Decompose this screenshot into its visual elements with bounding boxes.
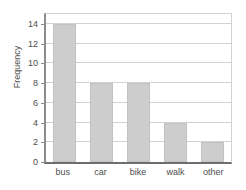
y-tick-mark [41,162,45,163]
bar [53,24,76,162]
y-tick-label: 10 [28,58,38,68]
y-axis-title: Frequency [12,12,22,122]
bar-slot [194,14,231,162]
plot-area: 02468101214 [44,13,232,164]
bar-slot [46,14,83,162]
x-axis-tick-labels: buscarbikewalkother [44,167,232,177]
x-tick-label: bus [44,167,82,177]
x-tick-label: car [82,167,120,177]
bar [201,142,224,162]
y-tick-mark [41,24,45,25]
bar-slot [83,14,120,162]
y-tick-label: 4 [33,118,38,128]
y-tick-mark [41,44,45,45]
x-tick-label: bike [119,167,157,177]
y-tick-mark [41,83,45,84]
y-tick-label: 2 [33,137,38,147]
y-tick-label: 6 [33,98,38,108]
y-tick-mark [41,63,45,64]
y-tick-mark [41,123,45,124]
y-tick-label: 12 [28,39,38,49]
y-tick-mark [41,142,45,143]
bar-group [46,14,231,162]
x-tick-label: other [194,167,232,177]
bar [90,83,113,162]
y-tick-label: 14 [28,19,38,29]
bar-slot [157,14,194,162]
y-tick-mark [41,103,45,104]
bar-slot [120,14,157,162]
y-tick-label: 0 [33,157,38,167]
bar [164,123,187,162]
y-tick-label: 8 [33,78,38,88]
bar-chart: Frequency 02468101214 buscarbikewalkothe… [0,0,246,190]
bar [127,83,150,162]
x-tick-label: walk [157,167,195,177]
